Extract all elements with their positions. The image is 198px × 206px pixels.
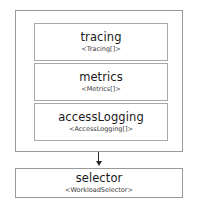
arrow-head — [96, 161, 102, 166]
field-box-metrics[interactable]: metrics <Metrics[]> — [34, 63, 168, 101]
field-type: <WorkloadSelector> — [65, 186, 133, 195]
field-type: <AccessLogging[]> — [69, 125, 133, 134]
field-type: <Tracing[]> — [81, 45, 120, 54]
field-name: accessLogging — [58, 111, 144, 124]
class-diagram: tracing <Tracing[]> metrics <Metrics[]> … — [0, 0, 198, 206]
field-name: selector — [76, 172, 123, 185]
field-name: tracing — [80, 31, 121, 44]
arrow-down-icon — [98, 152, 100, 166]
field-box-selector[interactable]: selector <WorkloadSelector> — [15, 168, 183, 198]
field-name: metrics — [79, 71, 123, 84]
fields-group-container: tracing <Tracing[]> metrics <Metrics[]> … — [15, 10, 183, 152]
field-type: <Metrics[]> — [81, 85, 121, 94]
field-box-accesslogging[interactable]: accessLogging <AccessLogging[]> — [34, 103, 168, 141]
field-box-tracing[interactable]: tracing <Tracing[]> — [34, 23, 168, 61]
